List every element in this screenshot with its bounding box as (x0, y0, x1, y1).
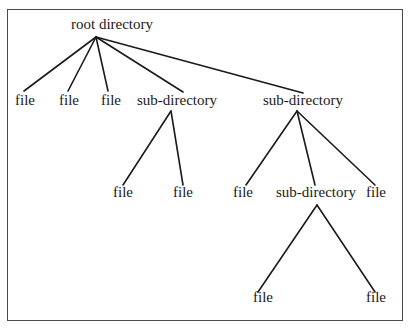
edge-sd3-to-f8 (258, 205, 317, 292)
tree-edges (0, 0, 412, 332)
node-file-f2: file (59, 93, 79, 108)
edge-sd1-to-f5 (171, 111, 183, 185)
node-file-f6: file (233, 185, 253, 200)
edge-root-to-f2 (68, 37, 96, 91)
edge-root-to-sd2 (96, 37, 303, 93)
edge-root-to-sd1 (96, 37, 183, 92)
node-file-f8: file (253, 290, 273, 305)
node-file-f1: file (15, 93, 35, 108)
edge-sd2-to-sd3 (297, 111, 315, 185)
node-file-f3: file (101, 93, 121, 108)
node-file-f7: file (366, 185, 386, 200)
node-sub-directory-sd2: sub-directory (263, 93, 343, 108)
edge-sd1-to-f4 (123, 111, 171, 185)
node-file-f5: file (173, 185, 193, 200)
node-file-f4: file (113, 185, 133, 200)
edge-root-to-f3 (96, 37, 108, 91)
node-root-directory-root: root directory (71, 17, 153, 32)
node-file-f9: file (366, 290, 386, 305)
edge-sd2-to-f6 (246, 111, 297, 185)
edge-sd2-to-f7 (297, 111, 375, 185)
edge-root-to-f1 (24, 37, 96, 91)
node-sub-directory-sd1: sub-directory (137, 93, 217, 108)
node-sub-directory-sd3: sub-directory (276, 185, 356, 200)
edge-sd3-to-f9 (317, 205, 375, 292)
